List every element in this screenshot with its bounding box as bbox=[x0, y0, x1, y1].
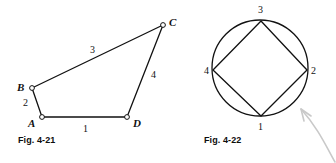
figure-4-22-artwork bbox=[212, 20, 308, 116]
vertex-marker-b bbox=[30, 86, 35, 91]
inscribed-quadrilateral-1234 bbox=[213, 21, 307, 116]
vertex-label-a: A bbox=[28, 118, 35, 129]
edge-label-4: 4 bbox=[151, 70, 156, 80]
point-label-3: 3 bbox=[258, 5, 263, 15]
edge-label-3: 3 bbox=[90, 45, 95, 55]
vertex-marker-c bbox=[161, 23, 166, 28]
figure-page: A B C D 1 2 3 4 Fig. 4-21 1 2 3 4 Fig. 4… bbox=[0, 0, 336, 163]
figure-caption-4-21: Fig. 4-21 bbox=[18, 136, 55, 145]
vertex-label-c: C bbox=[169, 17, 176, 28]
quadrilateral-abcd bbox=[32, 25, 163, 117]
circumscribed-circle bbox=[212, 20, 308, 116]
vertex-marker-a bbox=[40, 115, 45, 120]
edge-label-2: 2 bbox=[23, 98, 28, 108]
point-label-4: 4 bbox=[204, 66, 209, 76]
vertex-label-d: D bbox=[133, 118, 141, 129]
edge-label-1: 1 bbox=[83, 124, 88, 134]
figure-4-21-artwork bbox=[30, 23, 166, 120]
vertex-marker-d bbox=[125, 115, 130, 120]
figure-caption-4-22: Fig. 4-22 bbox=[204, 136, 241, 145]
point-label-1: 1 bbox=[258, 122, 263, 132]
point-label-2: 2 bbox=[311, 66, 316, 76]
vertex-label-b: B bbox=[17, 82, 24, 93]
pointer-arrow bbox=[301, 109, 335, 162]
